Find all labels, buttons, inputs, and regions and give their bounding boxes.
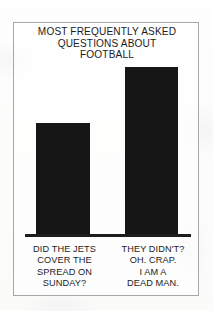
category-label-2-line-2: OH. CRAP. [108, 255, 198, 266]
category-label-2-line-4: DEAD MAN. [108, 278, 198, 289]
category-label-1-line-4: SUNDAY? [17, 278, 112, 289]
category-label-1: DID THE JETS COVER THE SPREAD ON SUNDAY? [17, 244, 112, 289]
bar-jets-cover-spread [36, 123, 90, 234]
category-label-1-line-2: COVER THE [17, 255, 112, 266]
comic-panel: MOST FREQUENTLY ASKED QUESTIONS ABOUT FO… [13, 22, 199, 296]
category-label-2-line-3: I AM A [108, 267, 198, 278]
category-label-2-line-1: THEY DIDN'T? [108, 244, 198, 255]
x-axis-line [25, 234, 191, 237]
category-labels: DID THE JETS COVER THE SPREAD ON SUNDAY?… [14, 244, 200, 296]
category-label-1-line-3: SPREAD ON [17, 267, 112, 278]
category-label-2: THEY DIDN'T? OH. CRAP. I AM A DEAD MAN. [108, 244, 198, 289]
category-label-1-line-1: DID THE JETS [17, 244, 112, 255]
bar-they-didnt-dead-man [125, 67, 178, 234]
